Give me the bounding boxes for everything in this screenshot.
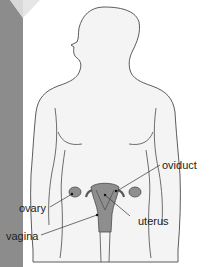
label-uterus: uterus xyxy=(138,215,169,227)
body-outline-figure xyxy=(0,0,210,267)
label-vagina: vagina xyxy=(6,230,38,242)
label-ovary: ovary xyxy=(19,202,46,214)
label-oviduct: oviduct xyxy=(162,159,197,171)
dot-uterus xyxy=(104,194,106,196)
dot-ovary xyxy=(71,193,73,195)
ovary-left xyxy=(69,187,81,197)
dot-vagina xyxy=(96,214,98,216)
ovary-right xyxy=(129,187,141,197)
dot-oviduct xyxy=(115,190,117,192)
